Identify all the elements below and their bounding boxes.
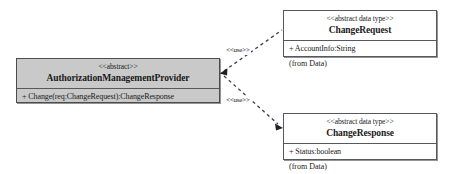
package-note-change-request: (from Data)	[289, 59, 327, 69]
class-name-change-request: ChangeRequest	[288, 24, 432, 36]
edge-label-use-change-response: <<use>>	[225, 96, 251, 105]
class-attributes-change-response: + Status:boolean	[284, 144, 436, 159]
class-operations-provider: + Change(req:ChangeRequest):ChangeRespon…	[17, 89, 219, 104]
class-header-change-response: <<abstract data type>> ChangeResponse	[284, 114, 436, 143]
class-header-provider: <<abstract>> AuthorizationManagementProv…	[17, 59, 219, 88]
class-operation-change: + Change(req:ChangeRequest):ChangeRespon…	[22, 91, 219, 102]
class-name-provider: AuthorizationManagementProvider	[21, 72, 215, 84]
class-attribute-account-info: + AccountInfo:String	[289, 43, 436, 54]
class-stereotype-change-request: <<abstract data type>>	[288, 14, 432, 24]
class-stereotype-change-response: <<abstract data type>>	[288, 117, 432, 127]
class-box-change-response[interactable]: <<abstract data type>> ChangeResponse + …	[283, 113, 437, 160]
class-box-authorization-management-provider[interactable]: <<abstract>> AuthorizationManagementProv…	[16, 58, 220, 103]
class-attributes-change-request: + AccountInfo:String	[284, 41, 436, 56]
package-note-change-response: (from Data)	[289, 162, 327, 172]
edge-use-change-response-arrowhead	[275, 124, 283, 131]
uml-diagram-canvas: <<use>> <<use>> <<abstract>> Authorizati…	[0, 0, 459, 174]
class-attribute-status: + Status:boolean	[289, 146, 436, 157]
class-box-change-request[interactable]: <<abstract data type>> ChangeRequest + A…	[283, 10, 437, 57]
edge-use-change-request-arrowhead	[220, 69, 228, 76]
edge-label-use-change-request: <<use>>	[225, 46, 251, 55]
class-name-change-response: ChangeResponse	[288, 127, 432, 139]
class-stereotype-provider: <<abstract>>	[21, 62, 215, 72]
class-header-change-request: <<abstract data type>> ChangeRequest	[284, 11, 436, 40]
